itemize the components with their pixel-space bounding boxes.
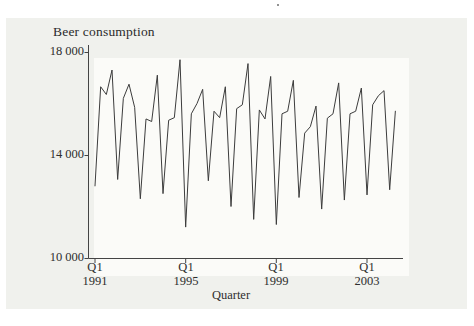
- x-tick-quarter: Q1: [70, 261, 120, 275]
- x-tick-quarter: Q1: [342, 261, 392, 275]
- beer-series-line: [95, 60, 395, 227]
- x-axis-title: Quarter: [201, 288, 261, 303]
- axes: [85, 45, 404, 263]
- x-axis-ticks: [95, 259, 367, 264]
- y-axis-ticks: [85, 53, 89, 259]
- chart-title: Beer consumption: [53, 24, 155, 40]
- x-tick-quarter: Q1: [161, 261, 211, 275]
- x-tick-label-1995: Q1 1995: [161, 261, 211, 288]
- x-tick-quarter: Q1: [251, 261, 301, 275]
- y-tick-label-14000: 14 000: [39, 148, 84, 161]
- x-tick-year: 1999: [251, 275, 301, 289]
- screenshot-root: { "figure": { "title": "Beer consumption…: [0, 0, 474, 326]
- x-tick-year: 2003: [342, 275, 392, 289]
- x-tick-label-1991: Q1 1991: [70, 261, 120, 288]
- x-tick-label-1999: Q1 1999: [251, 261, 301, 288]
- x-tick-label-2003: Q1 2003: [342, 261, 392, 288]
- x-tick-year: 1991: [70, 275, 120, 289]
- x-tick-year: 1995: [161, 275, 211, 289]
- screenshot-speck-artifact: [277, 4, 279, 6]
- y-tick-label-18000: 18 000: [39, 45, 84, 58]
